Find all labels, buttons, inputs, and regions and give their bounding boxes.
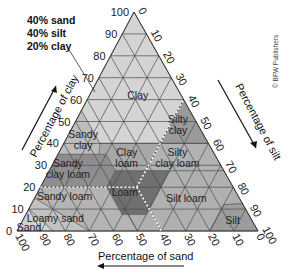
sand-tick: 90 — [37, 231, 53, 247]
annotation-silt: 40% silt — [27, 27, 75, 40]
sand-tick: 50 — [134, 231, 150, 247]
region-label-silt: Silt — [225, 214, 240, 226]
clay-tick: 60 — [70, 94, 82, 106]
arrow-head-icon — [97, 263, 104, 269]
region-label-silty-clay-loam: clay loam — [155, 157, 200, 169]
clay-tick: 40 — [47, 137, 59, 149]
region-label-sand: Sand — [17, 221, 42, 233]
sand-tick: 70 — [86, 231, 102, 247]
arrow-head-icon — [250, 141, 257, 148]
region-label-sandy-clay-loam: clay loam — [46, 168, 91, 180]
clay-tick: 100 — [111, 6, 129, 18]
clay-tick: 90 — [105, 28, 117, 40]
credit: © BFW Publishers — [272, 34, 279, 88]
region-label-loam: Loam — [112, 186, 139, 198]
region-label-clay-loam: loam — [115, 157, 138, 169]
clay-tick: 50 — [58, 116, 70, 128]
sand-tick: 30 — [182, 231, 198, 247]
clay-tick: 20 — [23, 181, 35, 193]
clay-tick: 80 — [93, 50, 105, 62]
sand-axis-title: Percentage of sand — [97, 250, 193, 269]
region-label-sandy-clay: clay — [74, 139, 93, 151]
example-annotation: 40% sand 40% silt 20% clay — [27, 14, 75, 53]
sand-tick: 100 — [13, 231, 32, 253]
silt-axis-title: Percentage of silt — [218, 80, 284, 162]
sand-tick: 10 — [230, 231, 246, 247]
region-label-clay: Clay — [127, 89, 149, 101]
sand-tick: 40 — [158, 231, 174, 247]
clay-tick: 0 — [6, 225, 12, 237]
annotation-clay: 20% clay — [27, 40, 75, 53]
sand-tick: 20 — [206, 231, 222, 247]
sand-tick: 80 — [61, 231, 77, 247]
svg-text:Percentage of sand: Percentage of sand — [98, 250, 193, 262]
sand-tick: 60 — [110, 231, 126, 247]
region-label-silt-loam: Silt loam — [166, 192, 207, 204]
silt-tick: 0 — [136, 5, 149, 16]
sand-tick: 0 — [254, 231, 267, 242]
clay-tick: 10 — [11, 203, 23, 215]
region-label-silty-clay: clay — [169, 124, 188, 136]
annotation-sand: 40% sand — [27, 14, 75, 27]
clay-tick: 30 — [35, 159, 47, 171]
region-label-sandy-loam: Sandy loam — [37, 190, 93, 202]
arrow-head-icon — [51, 86, 57, 93]
